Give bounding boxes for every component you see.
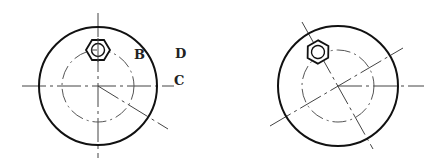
label-c: C	[174, 73, 184, 88]
right-hex-nut-icon	[303, 37, 334, 66]
left-hex-nut-icon	[86, 38, 110, 62]
diagram-canvas: B D C	[0, 0, 439, 167]
label-b: B	[134, 47, 145, 62]
label-d: D	[175, 46, 186, 61]
right-tilted-axis-1	[302, 22, 373, 149]
left-view: B D C	[22, 13, 186, 158]
right-tilted-axis-2	[270, 48, 403, 126]
right-view	[270, 22, 424, 149]
